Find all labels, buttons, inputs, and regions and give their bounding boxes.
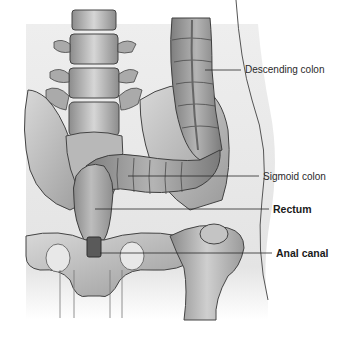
pelvis-illustration — [0, 0, 349, 340]
label-rectum: Rectum — [273, 203, 312, 215]
rectum-shape — [73, 164, 113, 240]
anatomy-figure: Descending colon Sigmoid colon Rectum An… — [0, 0, 349, 340]
label-descending-colon: Descending colon — [245, 64, 325, 76]
anal-canal-shape — [87, 237, 101, 257]
label-sigmoid-colon: Sigmoid colon — [263, 171, 326, 183]
label-anal-canal: Anal canal — [276, 247, 329, 259]
